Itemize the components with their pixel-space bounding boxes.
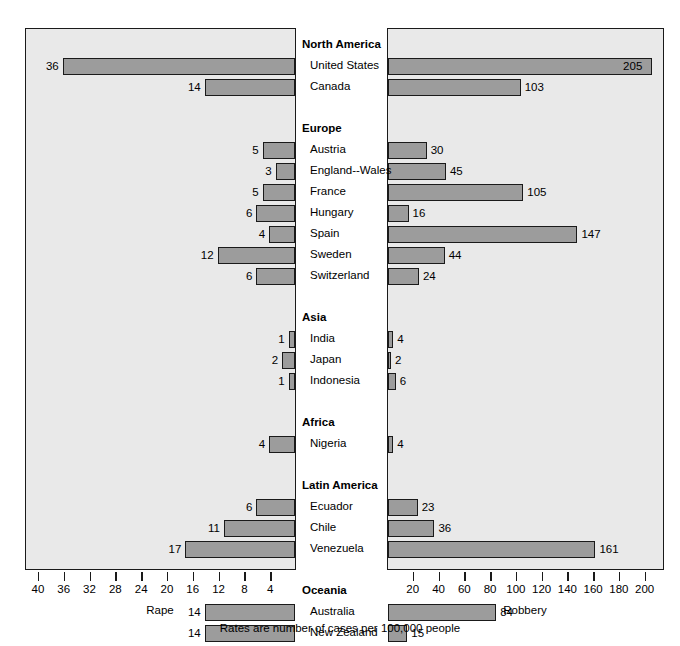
rape-bar-row: 5 xyxy=(26,182,295,203)
rape-axis-tick xyxy=(270,572,272,581)
rape-axis-tick xyxy=(244,572,246,581)
rape-bar xyxy=(276,163,295,180)
rape-value-label: 1 xyxy=(278,331,284,348)
rape-value-label: 14 xyxy=(188,79,201,96)
rape-axis-tick xyxy=(193,572,195,581)
robbery-bar xyxy=(388,436,393,453)
rape-axis-tick xyxy=(64,572,66,581)
rape-value-label: 12 xyxy=(201,247,214,264)
category-row: Sweden xyxy=(296,244,387,265)
rape-bar xyxy=(185,541,295,558)
robbery-bar-row: 161 xyxy=(388,539,663,560)
group-label: Africa xyxy=(296,412,335,433)
rape-bar-row: 17 xyxy=(26,539,295,560)
group-label: Latin America xyxy=(296,475,378,496)
category-label: Austria xyxy=(296,139,346,160)
group-header-row: North America xyxy=(296,34,387,55)
rape-axis-tick xyxy=(90,572,92,581)
spacer-row xyxy=(296,454,387,475)
robbery-value-label: 105 xyxy=(527,184,546,201)
group-header-row: Africa xyxy=(296,412,387,433)
category-row: France xyxy=(296,181,387,202)
robbery-bar xyxy=(388,331,393,348)
rape-value-label: 6 xyxy=(246,499,252,516)
robbery-bar xyxy=(388,163,446,180)
robbery-value-label: 103 xyxy=(525,79,544,96)
rape-bar xyxy=(269,436,295,453)
robbery-value-label: 36 xyxy=(438,520,451,537)
rape-value-label: 6 xyxy=(246,268,252,285)
rape-value-label: 6 xyxy=(246,205,252,222)
rape-axis-tick-label: 4 xyxy=(255,583,285,595)
robbery-value-label: 147 xyxy=(581,226,600,243)
category-label: Switzerland xyxy=(296,265,369,286)
robbery-value-label: 16 xyxy=(413,205,426,222)
robbery-axis-tick xyxy=(439,572,441,581)
rape-bar xyxy=(269,226,295,243)
rape-axis-tick xyxy=(167,572,169,581)
robbery-axis-tick xyxy=(413,572,415,581)
rape-bar-row: 1 xyxy=(26,371,295,392)
robbery-axis-tick xyxy=(516,572,518,581)
category-row: Venezuela xyxy=(296,538,387,559)
group-label: North America xyxy=(296,34,381,55)
group-label: Europe xyxy=(296,118,342,139)
robbery-bar xyxy=(388,541,595,558)
group-label: Oceania xyxy=(296,580,347,601)
rape-bar-row: 6 xyxy=(26,203,295,224)
robbery-bar-row: 36 xyxy=(388,518,663,539)
robbery-bar-row: 205 xyxy=(388,56,663,77)
robbery-bar xyxy=(388,142,427,159)
robbery-value-label: 23 xyxy=(422,499,435,516)
group-label: Asia xyxy=(296,307,326,328)
robbery-value-label: 24 xyxy=(423,268,436,285)
category-label: England--Wales xyxy=(296,160,391,181)
rape-value-label: 2 xyxy=(272,352,278,369)
robbery-bar-row: 16 xyxy=(388,203,663,224)
rape-value-label: 3 xyxy=(265,163,271,180)
rape-bar xyxy=(263,142,295,159)
rape-value-label: 1 xyxy=(278,373,284,390)
group-header-row: Europe xyxy=(296,118,387,139)
robbery-bar xyxy=(388,247,445,264)
rape-bar xyxy=(256,268,295,285)
robbery-value-label: 4 xyxy=(397,436,403,453)
rape-bar-row: 5 xyxy=(26,140,295,161)
robbery-value-label: 205 xyxy=(623,58,642,75)
spacer-row xyxy=(296,97,387,118)
robbery-bar-row: 103 xyxy=(388,77,663,98)
robbery-bar-row: 44 xyxy=(388,245,663,266)
rape-bar-row: 12 xyxy=(26,245,295,266)
robbery-bar xyxy=(388,268,419,285)
rape-bar-row: 6 xyxy=(26,266,295,287)
category-label: Indonesia xyxy=(296,370,360,391)
robbery-bar-row: 6 xyxy=(388,371,663,392)
robbery-bar-row: 23 xyxy=(388,497,663,518)
category-label: India xyxy=(296,328,335,349)
robbery-value-label: 2 xyxy=(395,352,401,369)
category-label: Spain xyxy=(296,223,339,244)
category-row: Chile xyxy=(296,517,387,538)
rape-plot-panel: 3614535641261214611171414 xyxy=(25,28,296,570)
category-label: Japan xyxy=(296,349,341,370)
robbery-plot-panel: 2051033045105161474424426423361618415 xyxy=(387,28,664,570)
robbery-value-label: 45 xyxy=(450,163,463,180)
robbery-bar xyxy=(388,499,418,516)
rape-bar-row: 3 xyxy=(26,161,295,182)
robbery-value-label: 4 xyxy=(397,331,403,348)
robbery-bar xyxy=(388,352,391,369)
rape-bar-row: 6 xyxy=(26,497,295,518)
rape-bar-row: 1 xyxy=(26,329,295,350)
robbery-value-label: 44 xyxy=(449,247,462,264)
crime-rates-chart: 3614535641261214611171414 20510330451051… xyxy=(0,0,680,646)
robbery-value-label: 161 xyxy=(599,541,618,558)
robbery-bar-row: 30 xyxy=(388,140,663,161)
category-row: Ecuador xyxy=(296,496,387,517)
category-label: France xyxy=(296,181,346,202)
robbery-axis-tick xyxy=(645,572,647,581)
rape-bar xyxy=(289,373,295,390)
category-label: Venezuela xyxy=(296,538,364,559)
rape-bar xyxy=(224,520,295,537)
rape-axis-tick xyxy=(115,572,117,581)
robbery-axis-tick xyxy=(490,572,492,581)
